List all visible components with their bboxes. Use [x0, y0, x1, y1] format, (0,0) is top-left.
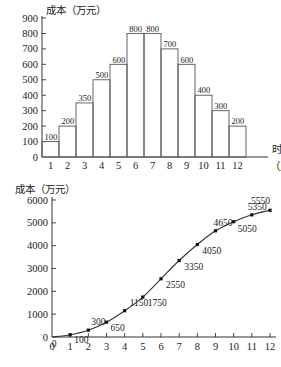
bar-value-label: 400 — [198, 85, 211, 95]
bar-y-tick-label: 800 — [22, 28, 38, 39]
bar-value-label: 600 — [181, 55, 194, 65]
line-data-label: 5550 — [251, 196, 270, 206]
bar-y-tick-label: 200 — [22, 121, 38, 132]
line-y-tick-label: 3000 — [27, 263, 48, 274]
bar-rect — [42, 142, 59, 157]
line-x-tick-label: 1 — [68, 341, 73, 352]
bar-value-label: 700 — [164, 39, 177, 49]
bar-rect — [59, 126, 76, 157]
bar-x-tick-label: 3 — [82, 160, 87, 171]
line-data-point — [87, 329, 90, 332]
line-y-tick-label: 1000 — [27, 309, 48, 320]
line-data-point — [123, 309, 126, 312]
bar-y-tick-label: 900 — [22, 13, 38, 24]
line-x-tick-label: 6 — [158, 341, 163, 352]
line-y-tick-label: 2000 — [27, 286, 48, 297]
line-x-tick-label: 5 — [140, 341, 145, 352]
line-chart-y-axis-title: 成本（万元） — [15, 183, 75, 195]
bar-value-label: 600 — [113, 55, 126, 65]
figure-canvas: 0100200300400500600700800900100200350500… — [0, 0, 281, 367]
bar-y-tick-label: 0 — [33, 152, 38, 163]
bar-rect — [144, 33, 161, 157]
line-data-label: 1750 — [148, 298, 167, 308]
bar-rect — [76, 103, 93, 157]
bar-value-label: 300 — [215, 101, 228, 111]
bar-value-label: 350 — [79, 93, 92, 103]
bar-value-label: 800 — [129, 24, 142, 34]
bar-rect — [93, 80, 110, 157]
bar-x-tick-label: 1 — [48, 160, 53, 171]
bar-y-tick-label: 400 — [22, 90, 38, 101]
line-data-label: 1150 — [130, 298, 149, 308]
line-x-tick-label: 12 — [265, 341, 276, 352]
line-x-tick-label: 9 — [213, 341, 218, 352]
bar-rect — [178, 64, 195, 157]
bar-rect — [195, 95, 212, 157]
line-data-label: 4650 — [214, 218, 233, 228]
bar-x-tick-label: 10 — [198, 160, 209, 171]
line-data-point — [268, 209, 271, 212]
bar-value-label: 100 — [45, 132, 58, 142]
bar-chart-x-axis-title: 时间 — [272, 143, 281, 155]
line-data-point — [159, 277, 162, 280]
bar-value-label: 800 — [146, 24, 159, 34]
line-y-tick-label: 5000 — [27, 217, 48, 228]
line-data-point — [196, 243, 199, 246]
bar-rect — [161, 49, 178, 157]
line-data-label: 4050 — [202, 246, 221, 256]
line-data-point — [214, 229, 217, 232]
line-x-tick-label: 4 — [122, 341, 128, 352]
line-data-label: 2550 — [166, 280, 185, 290]
line-data-point — [232, 220, 235, 223]
bar-x-tick-label: 11 — [215, 160, 225, 171]
line-x-tick-label: 11 — [247, 341, 257, 352]
line-x-tick-label: 7 — [177, 341, 182, 352]
bar-value-label: 200 — [62, 116, 75, 126]
line-data-point — [250, 213, 253, 216]
line-data-point — [69, 333, 72, 336]
bar-y-tick-label: 100 — [22, 136, 38, 147]
line-data-label: 650 — [111, 323, 126, 333]
bar-x-tick-label: 5 — [116, 160, 121, 171]
statistics-figure: 0100200300400500600700800900100200350500… — [0, 0, 281, 367]
line-x-tick-label: 10 — [228, 341, 239, 352]
bar-y-tick-label: 500 — [22, 74, 38, 85]
line-x-tick-label: 3 — [104, 341, 109, 352]
bar-y-tick-label: 300 — [22, 105, 38, 116]
bar-x-tick-label: 2 — [65, 160, 70, 171]
line-data-label: 300 — [91, 317, 106, 327]
line-data-label: 100 — [74, 335, 89, 345]
line-y-tick-label: 6000 — [27, 195, 48, 206]
bar-x-tick-label: 12 — [232, 160, 243, 171]
bar-x-tick-label: 6 — [133, 160, 138, 171]
bar-y-tick-label: 700 — [22, 43, 38, 54]
line-data-label: 5050 — [238, 224, 257, 234]
line-x-tick-label: 8 — [195, 341, 200, 352]
bar-rect — [212, 111, 229, 157]
line-data-label: 3350 — [184, 262, 203, 272]
bar-value-label: 200 — [232, 116, 245, 126]
bar-x-tick-label: 7 — [150, 160, 155, 171]
bar-chart-y-axis-title: 成本（万元） — [46, 4, 106, 16]
bar-rect — [229, 126, 246, 157]
bar-x-tick-label: 8 — [167, 160, 172, 171]
bar-chart-x-axis-unit: （月） — [270, 161, 281, 172]
bar-rect — [127, 33, 144, 157]
bar-rect — [110, 64, 127, 157]
line-data-point — [178, 259, 181, 262]
bar-value-label: 500 — [96, 70, 109, 80]
bar-x-tick-label: 9 — [184, 160, 189, 171]
bar-y-tick-label: 600 — [22, 59, 38, 70]
line-y-tick-label: 4000 — [27, 240, 48, 251]
line-y-tick-label: 0 — [43, 332, 48, 343]
bar-x-tick-label: 4 — [99, 160, 105, 171]
line-data-label: 0 — [52, 339, 57, 349]
